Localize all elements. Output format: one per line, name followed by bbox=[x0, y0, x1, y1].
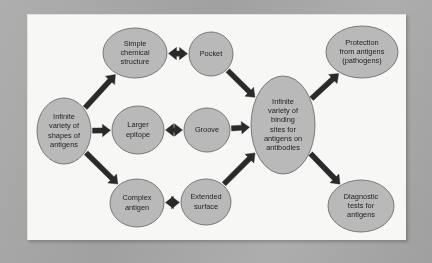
flow-diagram-canvas: Infinitevariety ofshapes ofantigensSimpl… bbox=[0, 0, 432, 263]
node-label-larger-epitope: epitope bbox=[126, 130, 150, 139]
node-label-diagnostic-tests: antigens bbox=[347, 210, 375, 219]
node-antigen-shapes: Infinitevariety ofshapes ofantigens bbox=[37, 98, 91, 164]
arrow-epitope-to-groove bbox=[166, 124, 183, 136]
arrow-antigen-to-epitope bbox=[92, 124, 110, 136]
node-label-binding-sites: sites for bbox=[270, 125, 296, 134]
arrow-extended-to-binding bbox=[222, 153, 255, 186]
node-label-extended-surface: Extended bbox=[190, 192, 221, 201]
node-label-antigen-shapes: variety of bbox=[49, 121, 80, 130]
node-label-binding-sites: antigens on bbox=[264, 134, 302, 143]
node-pocket: Pocket bbox=[189, 32, 233, 76]
node-layer: Infinitevariety ofshapes ofantigensSimpl… bbox=[37, 26, 398, 232]
node-larger-epitope: Largerepitope bbox=[112, 106, 164, 154]
arrow-antigen-to-simple bbox=[83, 75, 115, 110]
arrow-pocket-to-binding bbox=[226, 69, 255, 98]
node-binding-sites: Infinitevariety ofbindingsites forantige… bbox=[251, 76, 315, 174]
node-simple-chemical-structure: Simplechemicalstructure bbox=[103, 28, 167, 78]
node-groove: Groove bbox=[184, 108, 230, 152]
node-label-antigen-shapes: Infinite bbox=[53, 112, 75, 121]
node-label-protection: from antigens bbox=[340, 47, 385, 56]
arrow-antigen-to-complex bbox=[84, 151, 118, 184]
node-extended-surface: Extendedsurface bbox=[181, 179, 231, 225]
arrow-binding-to-protection bbox=[310, 74, 339, 101]
node-label-simple-chemical-structure: chemical bbox=[120, 48, 150, 57]
node-label-protection: (pathogens) bbox=[342, 56, 381, 65]
node-label-pocket: Pocket bbox=[200, 49, 223, 58]
node-label-simple-chemical-structure: Simple bbox=[124, 39, 147, 48]
node-label-binding-sites: antibodies bbox=[266, 143, 300, 152]
node-label-diagnostic-tests: Diagnostic bbox=[344, 192, 379, 201]
node-label-groove: Groove bbox=[195, 125, 219, 134]
node-label-antigen-shapes: antigens bbox=[50, 140, 78, 149]
node-label-diagnostic-tests: tests for bbox=[348, 201, 375, 210]
node-label-binding-sites: Infinite bbox=[272, 97, 294, 106]
node-label-complex-antigen: Complex bbox=[122, 193, 151, 202]
node-label-larger-epitope: Larger bbox=[127, 120, 149, 129]
node-label-protection: Protection bbox=[345, 38, 378, 47]
node-label-complex-antigen: antigen bbox=[125, 203, 149, 212]
arrow-groove-to-binding bbox=[231, 122, 249, 134]
node-protection: Protectionfrom antigens(pathogens) bbox=[326, 26, 398, 78]
arrow-simple-to-pocket bbox=[169, 47, 188, 59]
arrow-binding-to-diagnostic bbox=[309, 152, 340, 184]
node-label-binding-sites: variety of bbox=[268, 106, 299, 115]
node-complex-antigen: Complexantigen bbox=[110, 179, 164, 227]
node-diagnostic-tests: Diagnostictests forantigens bbox=[328, 180, 394, 232]
node-label-simple-chemical-structure: structure bbox=[121, 57, 150, 66]
arrow-complex-to-extended bbox=[166, 196, 180, 208]
diagram-screenshot: Infinitevariety ofshapes ofantigensSimpl… bbox=[0, 0, 432, 263]
node-label-extended-surface: surface bbox=[194, 202, 218, 211]
node-label-antigen-shapes: shapes of bbox=[48, 131, 81, 140]
node-label-binding-sites: binding bbox=[271, 115, 295, 124]
